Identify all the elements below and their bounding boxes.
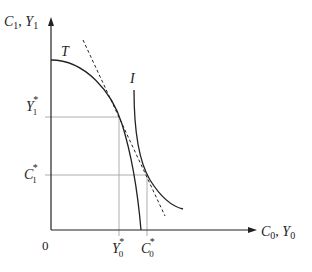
indifference-curve — [134, 90, 183, 209]
y-axis-arrow-icon — [48, 17, 54, 26]
axes — [51, 24, 250, 230]
diagram-canvas: C1, Y1 C0, Y0 0 T I Y1* C1* Y0* C0* — [0, 0, 312, 272]
y-axis-label: C1, Y1 — [4, 14, 38, 31]
tangent-budget-line — [83, 40, 165, 216]
c0-star-label: C0* — [141, 236, 155, 259]
indifference-curve-label: I — [129, 71, 136, 86]
guide-lines — [45, 117, 147, 236]
x-axis-label: C0, Y0 — [261, 224, 295, 241]
transformation-curve-label: T — [61, 44, 70, 59]
origin-label: 0 — [42, 238, 49, 253]
y1-star-label: Y1* — [26, 94, 38, 117]
transformation-curve — [51, 60, 141, 230]
c1-star-label: C1* — [24, 162, 38, 185]
y0-star-label: Y0* — [112, 236, 124, 259]
x-axis-arrow-icon — [248, 227, 257, 233]
